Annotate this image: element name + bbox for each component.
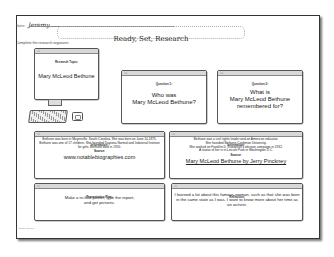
card-body: Bethune was born in Mayesville, South Ca…	[35, 137, 164, 162]
question-2-line-1: What is	[250, 89, 270, 96]
information-1-source: www.notablebiographies.com	[37, 154, 162, 161]
question-1-card: ○○ Question 1: Who was Mary McLeod Bethu…	[121, 70, 207, 124]
window-dots-icon: ○○	[37, 49, 40, 53]
window-dots-icon: ○○	[174, 184, 177, 188]
reflection-card: ○○ Reflection: I learned a lot about thi…	[171, 183, 303, 221]
card-header: ○○ Information:	[170, 132, 302, 137]
card-header: ○○ Presentation Plan:	[35, 184, 164, 189]
card-label: Information:	[91, 143, 109, 147]
question-2-card: ○○ Question 2: What is Mary McLeod Bethu…	[217, 70, 303, 124]
page-title: Ready, Set, Research	[114, 35, 189, 43]
title-box: Ready, Set, Research	[57, 26, 245, 39]
window-dots-icon: ○○	[172, 132, 175, 136]
card-header: ○○ Research Topic:	[35, 49, 98, 54]
question-2-line-3: remembered for?	[237, 103, 283, 110]
research-topic-card: ○○ Research Topic: Mary McLeod Bethune	[34, 48, 99, 100]
information-2-card: ○○ Information: Bethune was a civil righ…	[169, 131, 303, 179]
presentation-plan-card: ○○ Presentation Plan: Make a tri-fold po…	[34, 183, 165, 221]
question-2-line-2: Mary McLeod Bethune	[230, 96, 290, 103]
card-label: Question 1:	[156, 82, 173, 86]
card-label: Presentation Plan:	[86, 195, 112, 199]
card-label: Reflection:	[229, 195, 245, 199]
card-header: ○○ Reflection:	[172, 184, 302, 189]
card-header: ○○ Question 2:	[218, 71, 302, 76]
window-dots-icon: ○○	[37, 132, 40, 136]
presentation-plan-line-2: and get pictures.	[37, 200, 162, 205]
monitor-stand-icon	[48, 99, 62, 106]
name-label: Name:	[16, 24, 25, 28]
research-topic-text: Mary McLeod Bethune	[38, 73, 94, 80]
instructions: Complete the research organizer.	[16, 41, 69, 45]
card-header: ○○ Information:	[35, 132, 164, 137]
card-label: Information:	[227, 143, 245, 147]
window-dots-icon: ○○	[37, 184, 40, 188]
window-dots-icon: ○○	[124, 71, 127, 75]
information-1-card: ○○ Information: Bethune was born in Maye…	[34, 131, 165, 179]
card-body: Bethune was a civil rights leader and an…	[170, 137, 302, 166]
question-1-line-1: Who was	[152, 92, 177, 99]
window-dots-icon: ○○	[220, 71, 223, 75]
information-2-source: Mary McLeod Bethune by Jerry Pinckney	[172, 158, 300, 165]
card-label: Question 2:	[252, 82, 269, 86]
card-label: Research Topic:	[55, 60, 78, 64]
keyboard-icon	[28, 110, 68, 123]
copyright: © Ceane Carlone	[16, 227, 35, 230]
card-header: ○○ Question 1:	[122, 71, 206, 76]
question-1-line-2: Mary McLeod Bethune?	[132, 99, 196, 106]
mouse-icon	[72, 112, 83, 121]
